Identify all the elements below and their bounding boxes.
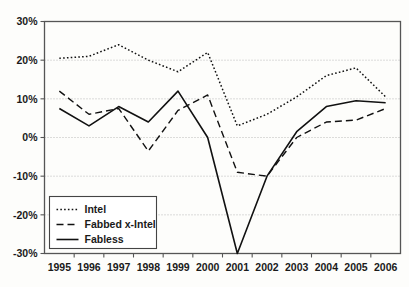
y-tick-label: -20% [13, 209, 38, 221]
x-tick-label: 2002 [255, 261, 279, 273]
legend-label[interactable]: Fabless [85, 233, 124, 245]
y-tick-label: 20% [16, 54, 38, 66]
x-tick-label: 2001 [226, 261, 250, 273]
x-tick-label: 1995 [48, 261, 72, 273]
x-tick-label: 1998 [137, 261, 161, 273]
y-tick-label: -10% [13, 170, 38, 182]
y-tick-label: 30% [16, 15, 38, 27]
y-tick-label: 10% [16, 93, 38, 105]
x-tick-label: 1997 [107, 261, 131, 273]
legend-label[interactable]: Intel [85, 203, 107, 215]
line-chart: 30%20%10%0%-10%-20%-30% 1995199619971998… [0, 0, 409, 287]
x-tick-label: 2003 [285, 261, 309, 273]
x-tick-label: 2000 [196, 261, 220, 273]
x-tick-label: 1996 [77, 261, 101, 273]
x-tick-label: 2005 [344, 261, 368, 273]
chart-container: 30%20%10%0%-10%-20%-30% 1995199619971998… [0, 0, 409, 287]
y-tick-label: 0% [22, 131, 38, 143]
x-tick-label: 2004 [315, 261, 339, 273]
x-tick-label: 1999 [166, 261, 190, 273]
chart-legend: IntelFabbed x-IntelFabless [50, 197, 157, 249]
y-tick-label: -30% [13, 247, 38, 259]
legend-label[interactable]: Fabbed x-Intel [85, 218, 156, 230]
x-tick-label: 2006 [374, 261, 398, 273]
